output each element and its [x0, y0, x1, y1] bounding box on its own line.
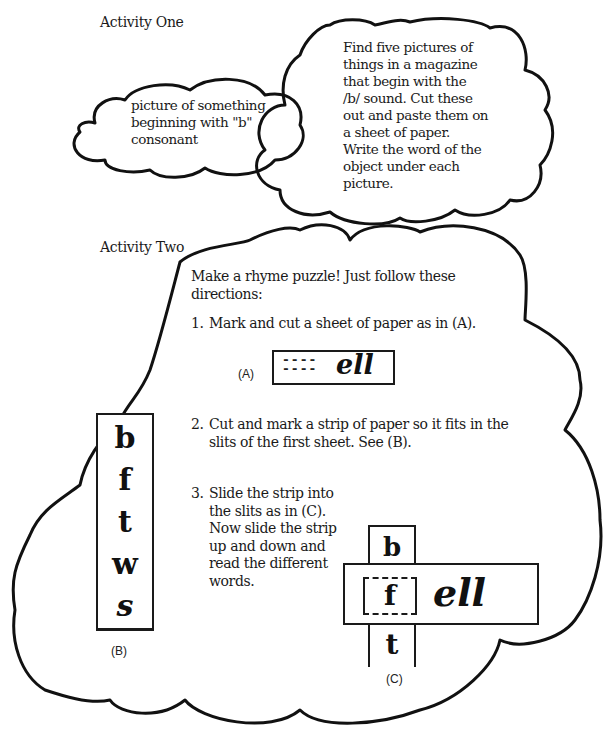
- step-number: 3.: [191, 485, 209, 590]
- step-line: words.: [209, 573, 337, 591]
- large-cloud-line: object under each: [343, 158, 533, 175]
- figure-b-label: (B): [111, 644, 127, 658]
- figure-a-label: (A): [238, 367, 254, 381]
- figure-b-strip: b f t w s: [96, 413, 154, 631]
- step-text: Slide the strip into the slits as in (C)…: [209, 485, 337, 590]
- large-cloud-line: picture.: [343, 175, 533, 192]
- step-2: 2. Cut and mark a strip of paper so it f…: [191, 416, 561, 451]
- large-cloud-line: that begin with the: [343, 73, 533, 90]
- figure-c-strip-bottom: t: [368, 625, 416, 667]
- strip-letter: w: [98, 543, 152, 585]
- intro-line: directions:: [191, 286, 571, 304]
- step-number: 1.: [191, 315, 209, 333]
- figure-c-slit: f: [363, 577, 417, 615]
- step-number: 2.: [191, 416, 209, 451]
- step-line: slits of the first sheet. See (B).: [209, 434, 508, 452]
- intro-line: Make a rhyme puzzle! Just follow these: [191, 268, 571, 286]
- activity-two-intro: Make a rhyme puzzle! Just follow these d…: [191, 268, 571, 303]
- large-cloud-line: Find five pictures of: [343, 39, 533, 56]
- large-cloud-line: Write the word of the: [343, 141, 533, 158]
- figure-a-ending: ell: [336, 349, 374, 380]
- step-line: up and down and: [209, 538, 337, 556]
- figure-c-sheet: f ell: [343, 563, 539, 625]
- large-cloud-line: out and paste them on: [343, 107, 533, 124]
- small-cloud-line: beginning with "b": [131, 114, 286, 131]
- step-line: Slide the strip into: [209, 485, 337, 503]
- small-cloud-line: picture of something: [131, 97, 286, 114]
- strip-middle-letter: f: [363, 579, 417, 613]
- step-line: read the different: [209, 555, 337, 573]
- figure-b-letters: b f t w s: [98, 415, 152, 627]
- small-cloud-line: consonant: [131, 131, 286, 148]
- small-cloud-text: picture of something beginning with "b" …: [131, 97, 286, 148]
- step-1: 1. Mark and cut a sheet of paper as in (…: [191, 315, 571, 333]
- figure-c-strip-top: b: [368, 525, 416, 567]
- activity-one-heading: Activity One: [100, 14, 184, 30]
- figure-c-label: (C): [386, 672, 403, 686]
- large-cloud-line: things in a magazine: [343, 56, 533, 73]
- step-line: the slits as in (C).: [209, 503, 337, 521]
- step-line: Cut and mark a strip of paper so it fits…: [209, 416, 508, 434]
- step-text: Mark and cut a sheet of paper as in (A).: [209, 315, 476, 333]
- step-line: Now slide the strip: [209, 520, 337, 538]
- large-cloud-line: /b/ sound. Cut these: [343, 90, 533, 107]
- figure-a-slits: ---- ----: [282, 355, 317, 373]
- strip-bottom-letter: t: [370, 625, 414, 665]
- large-cloud-line: a sheet of paper.: [343, 124, 533, 141]
- activity-two-heading: Activity Two: [100, 239, 184, 255]
- strip-top-letter: b: [370, 527, 414, 567]
- slit-left-mark: [363, 579, 365, 613]
- strip-letter: b: [98, 417, 152, 459]
- strip-letter: f: [98, 459, 152, 501]
- step-3: 3. Slide the strip into the slits as in …: [191, 485, 361, 590]
- strip-letter: t: [98, 501, 152, 543]
- figure-c-ending: ell: [433, 567, 486, 619]
- step-text: Cut and mark a strip of paper so it fits…: [209, 416, 508, 451]
- large-cloud-text: Find five pictures of things in a magazi…: [343, 39, 533, 192]
- strip-letter: s: [98, 585, 152, 627]
- slit-marks: ----: [282, 364, 317, 373]
- slit-right-mark: [415, 579, 417, 613]
- figure-a-sheet: ---- ---- ell: [272, 350, 395, 385]
